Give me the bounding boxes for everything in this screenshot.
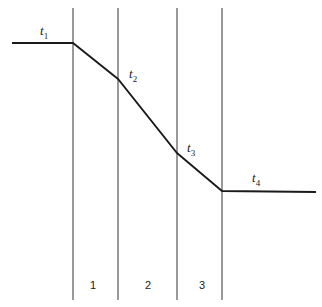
region-label-3: 3 [199, 279, 205, 291]
label-t1: t1 [40, 23, 48, 41]
layer-dividers [73, 8, 222, 300]
label-t4-sub: 4 [256, 178, 261, 188]
region-label-1: 1 [90, 279, 96, 291]
label-t3-sub: 3 [191, 148, 196, 158]
label-t1-sub: 1 [44, 31, 49, 41]
temperature-profile-line [12, 43, 316, 192]
label-t3: t3 [187, 140, 195, 158]
region-label-2: 2 [145, 279, 151, 291]
label-t4: t4 [252, 170, 260, 188]
diagram-canvas [0, 0, 322, 307]
label-t2-sub: 2 [133, 74, 138, 84]
label-t2: t2 [129, 66, 137, 84]
